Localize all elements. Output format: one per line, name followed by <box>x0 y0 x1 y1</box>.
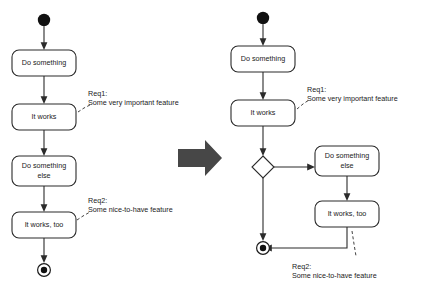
transform-arrow-icon <box>178 140 222 176</box>
requirement-annotation-req2: Req2: Some nice-to-have feature <box>77 196 173 220</box>
req2-text-after: Some nice-to-have feature <box>292 271 377 280</box>
req1-title: Req1: <box>88 89 107 98</box>
arrowhead-a4-to-end <box>41 255 48 263</box>
activity-label-do-something-else-after-line2: else <box>340 161 353 170</box>
activity-label-do-something-else-line2: else <box>37 171 50 180</box>
activity-label-it-works-too-after: It works, too <box>328 209 367 218</box>
arrowhead-a2-to-a3 <box>41 148 48 156</box>
activity-label-do-something-after: Do something <box>241 54 285 63</box>
arrowhead-a3-to-a4 <box>41 204 48 212</box>
activity-label-do-something-else-line1: Do something <box>22 161 66 170</box>
activity-label-it-works-too: It works, too <box>25 220 64 229</box>
before-diagram: Do something It works Do something else … <box>12 14 179 277</box>
arrowhead-b1-to-b2 <box>260 92 267 100</box>
arrowhead-decision-to-b3 <box>307 164 315 171</box>
initial-node-icon-after <box>257 12 269 24</box>
activity-label-do-something: Do something <box>22 58 66 67</box>
initial-node-icon <box>38 14 50 26</box>
arrowhead-b2-to-decision <box>260 148 267 156</box>
arrowhead-b3-to-b4 <box>344 193 351 201</box>
arrowhead-start-to-a1 <box>41 42 48 50</box>
req1-text-after: Some very important feature <box>307 94 398 103</box>
req2-title: Req2: <box>88 196 107 205</box>
activity-label-do-something-else-after-line1: Do something <box>325 151 369 160</box>
arrowhead-decision-to-end <box>260 233 267 241</box>
flow-b4-to-end <box>269 227 347 248</box>
activity-label-it-works: It works <box>32 112 57 121</box>
arrowhead-a1-to-a2 <box>41 96 48 104</box>
activity-diagram-comparison: Do something It works Do something else … <box>0 0 421 293</box>
decision-node[interactable] <box>252 156 274 178</box>
req1-title-after: Req1: <box>307 85 326 94</box>
requirement-annotation-req1: Req1: Some very important feature <box>78 89 179 112</box>
activity-label-it-works-after: It works <box>251 108 276 117</box>
req2-title-after: Req2: <box>292 262 311 271</box>
arrowhead-start-to-b1 <box>260 38 267 46</box>
req2-text: Some nice-to-have feature <box>88 205 173 214</box>
diagram-canvas: Do something It works Do something else … <box>0 0 421 293</box>
after-diagram: Do something It works Do something else <box>231 12 398 281</box>
requirement-annotation-req2-after: Req2: Some nice-to-have feature <box>292 231 377 280</box>
final-node-inner-icon <box>41 267 47 273</box>
req1-text: Some very important feature <box>88 98 179 107</box>
req2-leader-line-after <box>352 231 356 256</box>
final-node-inner-icon-after <box>260 245 266 251</box>
requirement-annotation-req1-after: Req1: Some very important feature <box>297 85 398 109</box>
